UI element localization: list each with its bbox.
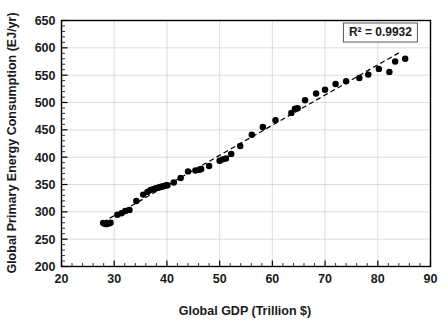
data-point bbox=[386, 69, 392, 75]
x-tick-label: 50 bbox=[213, 272, 227, 286]
data-point bbox=[402, 56, 408, 62]
data-point bbox=[164, 182, 170, 188]
data-point bbox=[107, 220, 113, 226]
y-tick-label: 550 bbox=[35, 69, 56, 83]
x-tick-label: 20 bbox=[55, 272, 69, 286]
data-point bbox=[343, 78, 349, 84]
y-tick-label: 400 bbox=[35, 151, 56, 165]
y-tick-label: 600 bbox=[35, 41, 56, 55]
r-squared-label: R² = 0.9932 bbox=[349, 25, 412, 39]
data-point bbox=[126, 207, 132, 213]
x-axis-title: Global GDP (Trillion $) bbox=[179, 304, 311, 318]
data-point bbox=[228, 151, 234, 157]
data-point bbox=[237, 143, 243, 149]
y-tick-label: 450 bbox=[35, 123, 56, 137]
x-tick-label: 70 bbox=[318, 272, 332, 286]
data-point bbox=[294, 105, 300, 111]
data-point bbox=[206, 163, 212, 169]
data-point bbox=[260, 124, 266, 130]
data-point bbox=[302, 97, 308, 103]
data-point bbox=[177, 175, 183, 181]
y-tick-label: 200 bbox=[35, 260, 56, 274]
data-point bbox=[365, 71, 371, 77]
data-point bbox=[376, 66, 382, 72]
data-point bbox=[198, 166, 204, 172]
data-point bbox=[332, 81, 338, 87]
chart-container: 2030405060708090 20025030035040045050055… bbox=[0, 0, 448, 325]
data-point bbox=[133, 198, 139, 204]
x-tick-label: 60 bbox=[265, 272, 279, 286]
y-tick-label: 250 bbox=[35, 233, 56, 247]
y-tick-label: 650 bbox=[35, 14, 56, 28]
data-point bbox=[313, 90, 319, 96]
y-tick-label: 500 bbox=[35, 96, 56, 110]
data-point bbox=[171, 179, 177, 185]
data-point bbox=[322, 86, 328, 92]
data-point bbox=[356, 75, 362, 81]
data-point bbox=[223, 155, 229, 161]
data-point bbox=[272, 117, 278, 123]
y-tick-label: 350 bbox=[35, 178, 56, 192]
scatter-plot: 2030405060708090 20025030035040045050055… bbox=[0, 0, 448, 325]
x-tick-label: 80 bbox=[371, 272, 385, 286]
data-point bbox=[249, 132, 255, 138]
y-axis-title: Global Primary Energy Consumption (EJ/yr… bbox=[5, 12, 19, 273]
data-point bbox=[185, 168, 191, 174]
r-squared-annotation: R² = 0.9932 bbox=[343, 23, 417, 42]
x-tick-label: 30 bbox=[107, 272, 121, 286]
x-tick-label: 40 bbox=[160, 272, 174, 286]
y-tick-label: 300 bbox=[35, 205, 56, 219]
data-point bbox=[392, 58, 398, 64]
x-tick-label: 90 bbox=[424, 272, 438, 286]
